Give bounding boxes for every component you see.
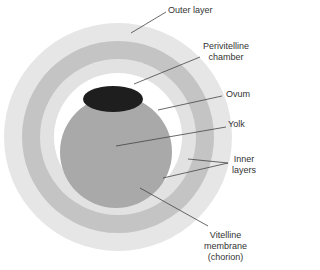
- label-perivitelline-line2: chamber: [203, 52, 249, 63]
- label-vitelline-line2: membrane: [204, 241, 247, 252]
- label-ovum: Ovum: [226, 89, 250, 100]
- ovum: [83, 86, 143, 112]
- yolk: [60, 96, 172, 208]
- label-vitelline-line1: Vitelline: [204, 230, 247, 241]
- label-outer-layer: Outer layer: [168, 5, 213, 16]
- label-perivitelline-line1: Perivitelline: [203, 41, 249, 52]
- label-vitelline-line3: (chorion): [204, 252, 247, 263]
- label-perivitelline-chamber: Perivitelline chamber: [203, 41, 249, 63]
- label-vitelline-membrane: Vitelline membrane (chorion): [204, 230, 247, 263]
- label-yolk: Yolk: [228, 119, 245, 130]
- label-inner-layers: Inner layers: [232, 154, 256, 176]
- label-inner-line2: layers: [232, 165, 256, 176]
- label-inner-line1: Inner: [232, 154, 256, 165]
